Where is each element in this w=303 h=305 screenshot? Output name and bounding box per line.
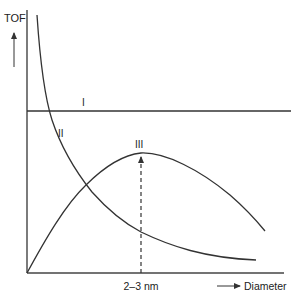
x-axis-label: Diameter [244, 280, 287, 292]
curve-i-label: I [82, 97, 85, 108]
curve-iii [27, 153, 265, 273]
y-axis-label: TOF [4, 12, 26, 24]
tof-vs-diameter-diagram: TOF I II III 2–3 nm Diameter [0, 0, 303, 305]
x-marker-label: 2–3 nm [123, 280, 158, 292]
curve-ii-label: II [58, 128, 64, 139]
curve-ii [37, 15, 256, 260]
curve-iii-label: III [135, 139, 143, 150]
